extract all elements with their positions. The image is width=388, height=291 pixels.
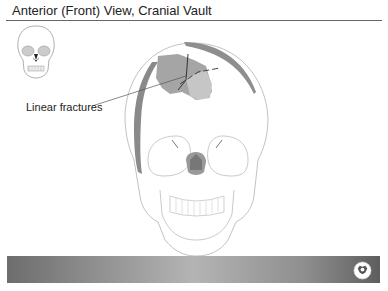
skull-fracture-illustration [0,0,388,291]
publisher-logo-icon [353,261,372,280]
footer-bar [7,256,380,283]
linear-fractures-label: Linear fractures [26,101,102,113]
